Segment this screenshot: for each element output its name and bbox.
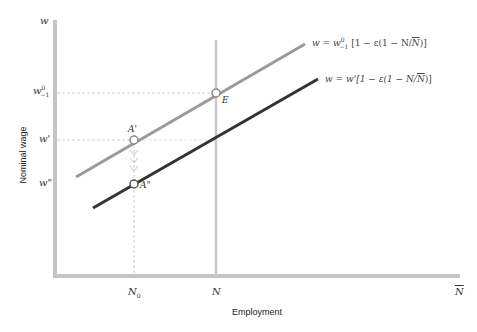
y-tick-wdoubleprime: w" (39, 177, 52, 188)
label-a-prime: A' (128, 124, 137, 134)
label-e: E (222, 95, 229, 105)
label-a-double-prime: A" (140, 180, 151, 190)
y-axis-title: Nominal wage (18, 126, 28, 183)
y-tick-wprime: w' (39, 133, 50, 144)
point-a-double-prime (130, 180, 138, 188)
lower-curve-equation: w = w'[1 − ε(1 − N/N)] (325, 74, 432, 84)
y-axis-symbol: w (40, 15, 49, 26)
x-axis-title: Employment (232, 307, 282, 317)
y-tick-w0-1: w0−1 (33, 84, 49, 98)
x-tick-n0: N0 (128, 286, 141, 299)
diagram-canvas (0, 0, 477, 332)
x-tick-n: N (212, 286, 221, 297)
upper-curve-equation: w = w0−1 [1 − ε(1 − N/N)] (312, 36, 427, 50)
upper-wage-curve (76, 44, 305, 177)
point-e (212, 89, 220, 97)
x-tick-nbar: N (455, 286, 464, 297)
point-a-prime (130, 136, 138, 144)
lower-wage-curve (93, 79, 318, 208)
